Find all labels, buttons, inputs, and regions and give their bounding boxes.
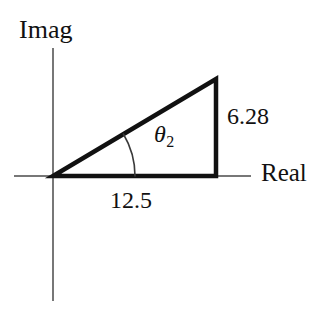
diagram-canvas <box>0 0 325 313</box>
real-axis-label: Real <box>261 160 307 185</box>
phasor-diagram-figure: Imag Real 6.28 12.5 θ2 <box>0 0 325 313</box>
angle-symbol: θ <box>154 121 166 147</box>
imag-axis-label: Imag <box>19 17 72 43</box>
vertical-side-value-label: 6.28 <box>227 104 269 128</box>
angle-label: θ2 <box>154 122 174 150</box>
horizontal-side-value-label: 12.5 <box>110 188 152 212</box>
angle-arc <box>123 134 135 176</box>
angle-subscript: 2 <box>166 133 174 150</box>
